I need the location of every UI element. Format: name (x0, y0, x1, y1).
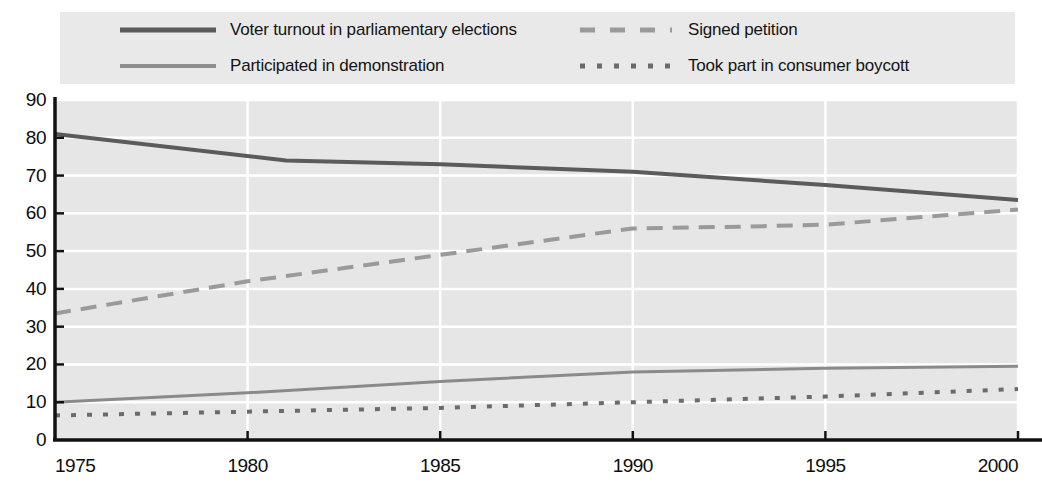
y-axis-tick-labels: 0102030405060708090 (0, 0, 46, 503)
y-tick-label: 50 (2, 240, 46, 262)
y-tick-label: 30 (2, 316, 46, 338)
x-tick-label: 1990 (613, 455, 653, 477)
y-tick-label: 10 (2, 391, 46, 413)
x-tick-label: 1985 (420, 455, 460, 477)
y-tick-label: 80 (2, 127, 46, 149)
x-tick-label: 2000 (978, 455, 1018, 477)
x-tick-label: 1975 (55, 455, 95, 477)
y-tick-label: 40 (2, 278, 46, 300)
x-tick-label: 1995 (805, 455, 845, 477)
y-tick-label: 60 (2, 202, 46, 224)
x-tick-label: 1980 (227, 455, 267, 477)
y-tick-label: 20 (2, 353, 46, 375)
chart-plot-area (0, 0, 1042, 503)
y-tick-label: 70 (2, 165, 46, 187)
y-tick-label: 90 (2, 89, 46, 111)
y-tick-label: 0 (2, 429, 46, 451)
chart-figure: Voter turnout in parliamentary elections… (0, 0, 1042, 503)
